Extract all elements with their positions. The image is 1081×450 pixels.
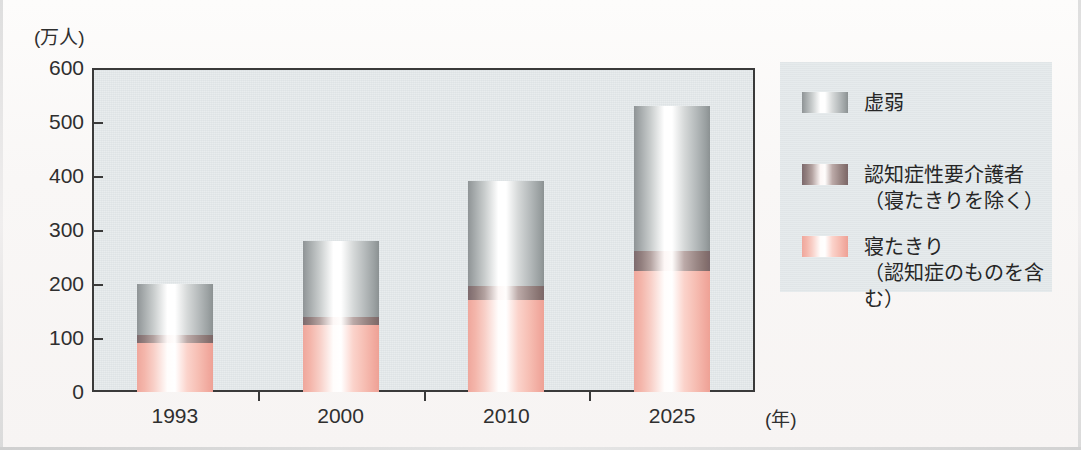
y-axis-tick-labels: 0100200300400500600 — [18, 68, 84, 392]
bedridden-swatch-icon — [802, 236, 848, 257]
bar-segment-虚弱 — [137, 284, 213, 335]
x-axis-tick-marks — [92, 392, 755, 402]
chart-page: (万人) 0100200300400500600 199320002010202… — [0, 0, 1081, 450]
y-axis-tick-label: 0 — [22, 380, 84, 404]
legend: 虚弱認知症性要介護者 （寝たきりを除く）寝たきり （認知症のものを含む） — [780, 62, 1052, 292]
bar-group — [303, 241, 379, 392]
bar-segment-寝たきり — [468, 300, 544, 392]
x-axis-tick-mark — [424, 392, 426, 401]
y-axis-tick-label: 500 — [22, 110, 84, 134]
frail-swatch-icon — [802, 92, 848, 113]
y-axis-tick-label: 600 — [22, 56, 84, 80]
legend-item[interactable]: 虚弱 — [802, 90, 904, 116]
x-axis-tick-label: 2010 — [483, 404, 530, 428]
bar-segment-虚弱 — [634, 106, 710, 251]
x-axis-unit-label: (年) — [765, 404, 797, 431]
bar-segment-虚弱 — [303, 241, 379, 318]
legend-item[interactable]: 認知症性要介護者 （寝たきりを除く） — [802, 162, 1044, 214]
y-axis-unit-label: (万人) — [34, 22, 85, 49]
bar-segment-寝たきり — [137, 343, 213, 392]
x-axis-tick-label: 2000 — [317, 404, 364, 428]
bar-segment-認知症性要介護者 — [137, 335, 213, 343]
dementia-swatch-icon — [802, 164, 848, 185]
legend-item[interactable]: 寝たきり （認知症のものを含む） — [802, 234, 1052, 312]
scan-edge-left — [0, 0, 3, 450]
bar-segment-寝たきり — [634, 271, 710, 393]
legend-item-label: 寝たきり （認知症のものを含む） — [864, 234, 1052, 312]
x-axis-tick-labels: 1993200020102025 — [92, 404, 755, 434]
bar-segment-虚弱 — [468, 181, 544, 285]
x-axis-tick-mark — [258, 392, 260, 401]
bar-group — [634, 106, 710, 392]
bar-segment-寝たきり — [303, 325, 379, 393]
y-axis-tick-label: 300 — [22, 218, 84, 242]
y-axis-tick-label: 400 — [22, 164, 84, 188]
bar-segment-認知症性要介護者 — [303, 317, 379, 324]
legend-item-label: 認知症性要介護者 （寝たきりを除く） — [864, 162, 1044, 214]
bar-series-layer — [92, 68, 755, 392]
bar-segment-認知症性要介護者 — [468, 286, 544, 301]
y-axis-tick-label: 100 — [22, 326, 84, 350]
bar-group — [137, 284, 213, 392]
legend-item-label: 虚弱 — [864, 90, 904, 116]
x-axis-tick-label: 2025 — [649, 404, 696, 428]
bar-group — [468, 181, 544, 392]
y-axis-tick-label: 200 — [22, 272, 84, 296]
x-axis-tick-label: 1993 — [152, 404, 199, 428]
x-axis-tick-mark — [589, 392, 591, 401]
bar-segment-認知症性要介護者 — [634, 251, 710, 271]
